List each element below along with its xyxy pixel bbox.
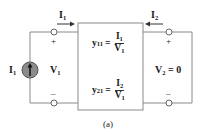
left-bottom-terminal (51, 100, 57, 106)
right-plus-sign: + (166, 37, 171, 46)
i1-label: I1 (59, 10, 66, 22)
left-plus-sign: + (51, 37, 56, 46)
i1-arrow-icon (57, 22, 75, 27)
left-minus-sign: – (51, 89, 56, 98)
right-bottom-terminal (166, 100, 172, 106)
y21-equation: y21 = I2 V1 (92, 79, 125, 102)
right-top-terminal (166, 29, 172, 35)
v2-label: V2 = 0 (155, 65, 181, 77)
figure-caption: (a) (103, 119, 113, 129)
left-top-terminal (51, 29, 57, 35)
y11-equation: y11 = I1 V1 (92, 32, 124, 55)
current-source-icon (22, 62, 38, 78)
v1-label: V1 (50, 65, 60, 77)
i2-label: I2 (151, 10, 158, 22)
i2-arrow-icon (145, 22, 163, 27)
source-label: I1 (9, 65, 16, 77)
right-minus-sign: – (166, 89, 171, 98)
